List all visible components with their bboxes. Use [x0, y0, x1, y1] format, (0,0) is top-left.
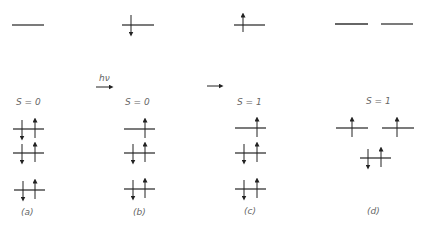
- panel-label-b: (b): [133, 207, 146, 217]
- photon-label: hν: [99, 73, 110, 83]
- panel-label-a: (a): [21, 207, 34, 217]
- spin-label-c: S = 1: [237, 97, 262, 107]
- panel-label-d: (d): [367, 206, 380, 216]
- spin-label-d: S = 1: [366, 96, 391, 106]
- spin-label-b: S = 0: [125, 97, 150, 107]
- spin-label-a: S = 0: [16, 97, 41, 107]
- energy-level-diagram: [0, 0, 427, 227]
- panel-label-c: (c): [244, 206, 256, 216]
